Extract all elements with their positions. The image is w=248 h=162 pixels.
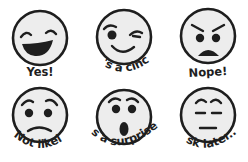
label-nope: Nope!	[188, 64, 227, 80]
emoji-grid: Yes! It's a cinch Nope! Not likely	[0, 0, 248, 162]
laughing-face-icon: Yes!	[13, 11, 67, 79]
label-yes: Yes!	[25, 65, 53, 79]
angry-face-icon: Nope!	[181, 9, 235, 80]
